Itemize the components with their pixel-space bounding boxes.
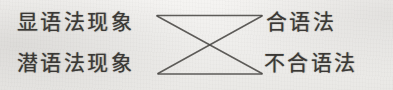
node-label-implicit-grammar-phenomenon: 潜语法现象: [17, 53, 134, 74]
scanned-figure: 显语法现象 潜语法现象 合语法 不合语法: [0, 0, 393, 90]
node-label-grammatical: 合语法: [266, 12, 336, 33]
node-label-explicit-grammar-phenomenon: 显语法现象: [17, 12, 134, 33]
node-label-ungrammatical: 不合语法: [264, 53, 358, 74]
